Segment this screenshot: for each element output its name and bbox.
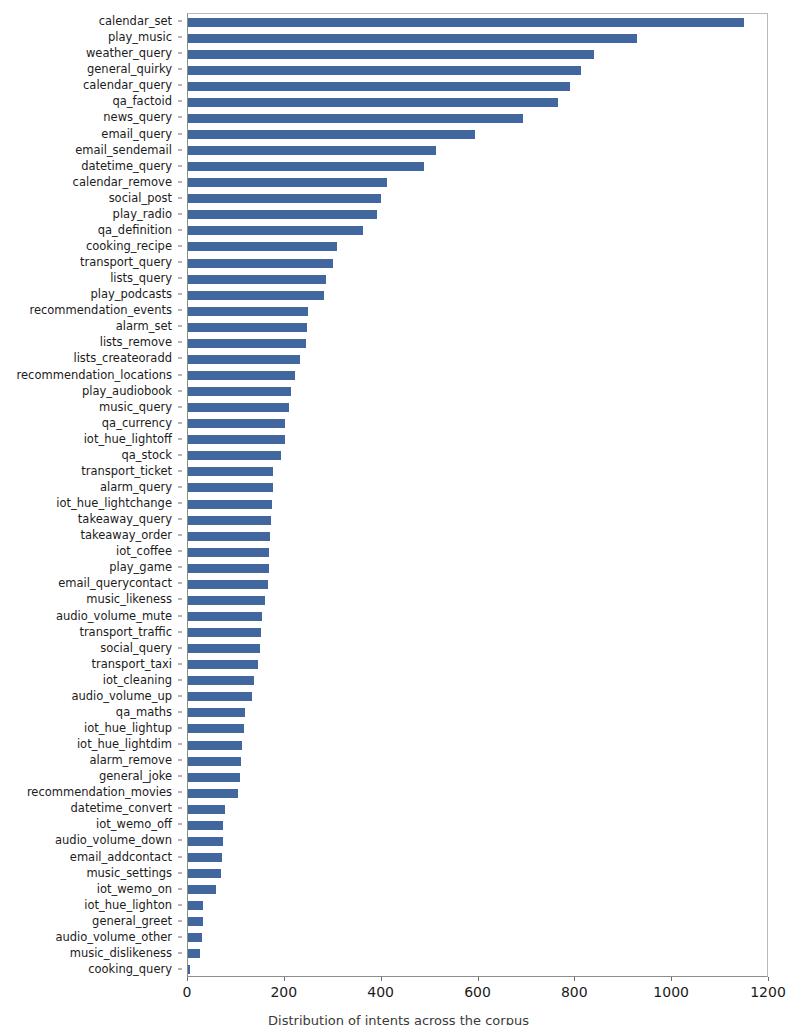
- y-tick-mark: [178, 181, 182, 182]
- bar: [188, 130, 475, 139]
- bar: [188, 355, 300, 364]
- figure-caption: Distribution of intents across the corpu…: [0, 1013, 797, 1025]
- x-tick-mark: [574, 977, 575, 981]
- bar-row: [188, 882, 767, 898]
- bar: [188, 483, 273, 492]
- x-axis-ticks: 020040060080010001200: [187, 977, 768, 1017]
- bar: [188, 500, 272, 509]
- bar-row: [188, 576, 767, 592]
- y-tick-label-play-game: play_game: [109, 561, 172, 573]
- bar: [188, 146, 436, 155]
- y-tick-label-audio-volume-down: audio_volume_down: [55, 834, 172, 846]
- y-tick-mark: [178, 599, 182, 600]
- bar: [188, 162, 424, 171]
- bar-row: [188, 62, 767, 78]
- bar: [188, 580, 268, 589]
- y-tick-label-news-query: news_query: [103, 111, 172, 123]
- y-tick-label-transport-query: transport_query: [80, 256, 172, 268]
- y-tick-label-transport-taxi: transport_taxi: [92, 658, 172, 670]
- y-tick-mark: [178, 792, 182, 793]
- y-tick-label-email-query: email_query: [101, 128, 172, 140]
- bar: [188, 596, 265, 605]
- y-tick-mark: [178, 679, 182, 680]
- bar: [188, 837, 223, 846]
- x-tick-label-800: 800: [561, 984, 588, 1000]
- bar: [188, 869, 221, 878]
- bar: [188, 612, 262, 621]
- y-tick-mark: [178, 824, 182, 825]
- y-tick-label-qa-currency: qa_currency: [102, 417, 172, 429]
- y-tick-label-general-greet: general_greet: [92, 915, 172, 927]
- y-tick-label-takeaway-query: takeaway_query: [78, 513, 172, 525]
- y-tick-label-iot-hue-lighton: iot_hue_lighton: [84, 899, 172, 911]
- y-tick-label-social-query: social_query: [100, 642, 172, 654]
- y-tick-label-music-settings: music_settings: [86, 867, 172, 879]
- y-tick-label-play-radio: play_radio: [113, 208, 172, 220]
- y-tick-label-play-audiobook: play_audiobook: [82, 385, 172, 397]
- y-tick-mark: [178, 101, 182, 102]
- y-tick-label-cooking-query: cooking_query: [88, 963, 172, 975]
- bar-row: [188, 384, 767, 400]
- bar-row: [188, 448, 767, 464]
- y-tick-mark: [178, 808, 182, 809]
- bar: [188, 34, 637, 43]
- bar-row: [188, 175, 767, 191]
- y-tick-mark: [178, 920, 182, 921]
- y-axis-tick-labels: calendar_setplay_musicweather_querygener…: [0, 13, 182, 977]
- bars-container: [188, 14, 767, 976]
- bar: [188, 933, 202, 942]
- y-tick-mark: [178, 519, 182, 520]
- x-tick-label-600: 600: [464, 984, 491, 1000]
- bar: [188, 853, 222, 862]
- y-tick-mark: [178, 503, 182, 504]
- y-tick-label-recommendation-movies: recommendation_movies: [27, 786, 172, 798]
- bar-row: [188, 416, 767, 432]
- bar-row: [188, 849, 767, 865]
- bar: [188, 965, 190, 974]
- bar: [188, 532, 270, 541]
- y-tick-label-play-podcasts: play_podcasts: [90, 288, 172, 300]
- bar: [188, 628, 261, 637]
- bar-row: [188, 287, 767, 303]
- x-tick-mark: [381, 977, 382, 981]
- y-tick-mark: [178, 390, 182, 391]
- y-tick-label-social-post: social_post: [109, 192, 172, 204]
- bar: [188, 419, 285, 428]
- y-tick-mark: [178, 776, 182, 777]
- y-tick-label-alarm-set: alarm_set: [116, 320, 172, 332]
- y-tick-mark: [178, 406, 182, 407]
- x-tick-label-200: 200: [270, 984, 297, 1000]
- x-tick-mark: [768, 977, 769, 981]
- y-tick-mark: [178, 486, 182, 487]
- bar: [188, 387, 291, 396]
- bar: [188, 98, 558, 107]
- bar: [188, 789, 238, 798]
- y-tick-label-play-music: play_music: [108, 31, 172, 43]
- y-tick-mark: [178, 615, 182, 616]
- bar: [188, 226, 363, 235]
- bar-row: [188, 560, 767, 576]
- y-tick-label-calendar-query: calendar_query: [83, 79, 172, 91]
- bar: [188, 757, 241, 766]
- bar-row: [188, 657, 767, 673]
- y-tick-mark: [178, 631, 182, 632]
- bar-row: [188, 126, 767, 142]
- y-tick-mark: [178, 583, 182, 584]
- bar-row: [188, 914, 767, 930]
- y-tick-label-audio-volume-mute: audio_volume_mute: [56, 610, 172, 622]
- bar: [188, 66, 581, 75]
- bar-row: [188, 721, 767, 737]
- y-tick-mark: [178, 53, 182, 54]
- bar: [188, 724, 244, 733]
- bar: [188, 773, 240, 782]
- y-tick-mark: [178, 727, 182, 728]
- bar-row: [188, 625, 767, 641]
- bar-row: [188, 689, 767, 705]
- y-tick-mark: [178, 165, 182, 166]
- bar-row: [188, 239, 767, 255]
- y-tick-label-datetime-convert: datetime_convert: [71, 802, 172, 814]
- y-tick-label-email-sendemail: email_sendemail: [75, 144, 172, 156]
- y-tick-label-email-querycontact: email_querycontact: [58, 577, 172, 589]
- bar-row: [188, 753, 767, 769]
- bar-row: [188, 94, 767, 110]
